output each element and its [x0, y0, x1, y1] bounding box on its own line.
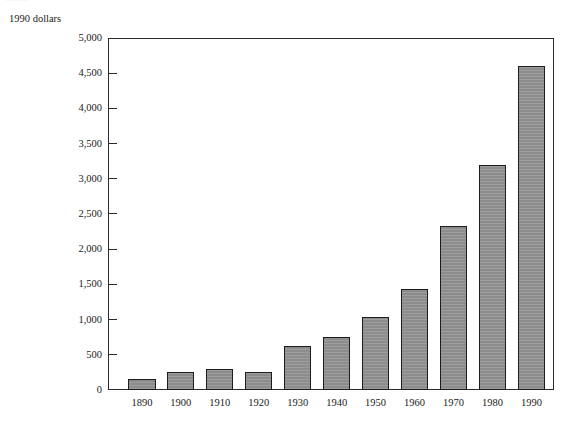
x-axis-tick-label: 1990: [507, 396, 555, 409]
bar: [401, 289, 428, 390]
chart-figure: ......... 1990 dollars 05001,0001,5002,0…: [0, 0, 570, 422]
bar: [284, 346, 311, 390]
bar-texture: [519, 67, 544, 389]
bar-texture: [168, 373, 193, 389]
y-axis-tick-label: 3,000: [38, 173, 102, 184]
bar: [128, 379, 155, 390]
x-axis-labels: 1890190019101920193019401950196019701980…: [108, 396, 554, 414]
bar-texture: [324, 338, 349, 389]
y-axis-tick-label: 4,000: [38, 102, 102, 113]
bar: [518, 66, 545, 390]
bar-texture: [363, 318, 388, 389]
bar: [206, 369, 233, 390]
bar-texture: [207, 370, 232, 389]
y-axis-tick-label: 0: [38, 384, 102, 395]
cut-off-caption-text: .........: [6, 0, 29, 3]
bar-texture: [402, 290, 427, 389]
bar: [479, 165, 506, 390]
bar-texture: [129, 380, 154, 389]
bar: [167, 372, 194, 390]
bar-texture: [441, 227, 466, 389]
bar: [245, 372, 272, 390]
y-axis-labels: 05001,0001,5002,0002,5003,0003,5004,0004…: [30, 0, 102, 422]
bar-texture: [285, 347, 310, 389]
bar: [323, 337, 350, 390]
bar: [440, 226, 467, 390]
bar-texture: [246, 373, 271, 389]
y-axis-tick-label: 2,000: [38, 243, 102, 254]
y-axis-tick-label: 5,000: [38, 32, 102, 43]
y-axis-tick-label: 4,500: [38, 67, 102, 78]
y-axis-tick-label: 1,500: [38, 278, 102, 289]
y-axis-tick-label: 500: [38, 349, 102, 360]
bar-texture: [480, 166, 505, 389]
y-axis-tick-label: 3,500: [38, 138, 102, 149]
bar: [362, 317, 389, 390]
bar-series: [108, 38, 554, 390]
y-axis-tick-label: 1,000: [38, 314, 102, 325]
y-axis-tick-label: 2,500: [38, 208, 102, 219]
